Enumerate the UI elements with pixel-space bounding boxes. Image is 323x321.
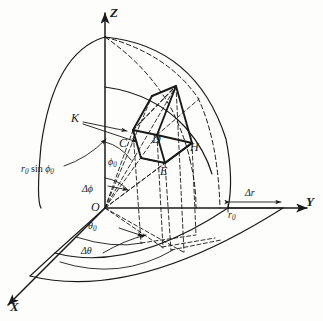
phi-subscript: 0 <box>113 161 117 169</box>
leader-k-2 <box>83 124 137 142</box>
delta-r-label: Δr <box>245 188 255 198</box>
point-h-label: H <box>190 141 199 153</box>
point-e-label: E <box>160 165 167 177</box>
point-k-label: K <box>71 112 79 124</box>
ray-o-to-topback <box>105 86 176 208</box>
y-axis-label: Y <box>306 195 314 208</box>
point-d-label: D <box>152 133 161 145</box>
base-edge-x-inner <box>55 208 105 253</box>
delta-phi-label: Δϕ <box>82 184 93 194</box>
outer-meridian-dashed-2 <box>105 37 190 160</box>
base-ray-theta0-dtheta <box>105 208 185 253</box>
r-zero-label: r0 <box>228 210 236 222</box>
r-zero-subscript: 0 <box>232 214 236 222</box>
element-edge-d-h <box>157 135 192 143</box>
leader-r0sinphi0 <box>64 139 106 166</box>
r0-sin-phi0-sin: sin <box>31 163 43 174</box>
spherical-coordinates-figure: Z Y X O K C D E H ϕ0 Δϕ θ0 Δθ r0 sin ϕ0 … <box>0 0 323 321</box>
theta-zero-label: θ0 <box>88 221 97 233</box>
delta-theta-label: Δθ <box>81 246 92 256</box>
outer-meridian-dashed-1 <box>105 37 198 98</box>
point-c-label: C <box>119 137 127 149</box>
sphere-outlines <box>39 37 231 208</box>
x-axis-label: X <box>10 300 19 313</box>
outer-sphere-meridian-right <box>105 37 231 208</box>
arc-theta0 <box>76 237 142 245</box>
base-ray-theta0 <box>105 208 162 247</box>
phi-zero-label: ϕ0 <box>108 157 117 169</box>
arc-delta-theta <box>60 250 173 269</box>
base-edge-x-outer <box>30 253 55 276</box>
base-proj-chord-1 <box>141 235 196 243</box>
element-hidden-diag <box>133 86 176 130</box>
origin-label: O <box>91 201 100 213</box>
r0-sin-phi0-sub2: 0 <box>50 168 54 176</box>
axis-lines <box>8 13 307 305</box>
proj-h-down <box>192 143 196 235</box>
diagram-canvas <box>0 0 323 321</box>
z-axis-label: Z <box>110 6 118 19</box>
base-angle-rays-dashed <box>105 208 221 253</box>
theta-subscript: 0 <box>93 225 97 233</box>
r0-sin-phi0-label: r0 sin ϕ0 <box>21 164 54 176</box>
